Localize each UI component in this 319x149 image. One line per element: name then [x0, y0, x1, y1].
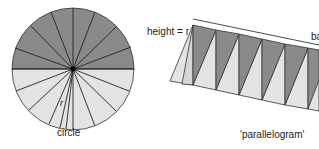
diagram-canvas: r circle height = r ba 'parallelogram' [0, 0, 319, 149]
center-dot [71, 67, 76, 72]
parallelogram-label: 'parallelogram' [240, 130, 304, 140]
base-label: ba [311, 32, 319, 42]
parallelogram-figure [170, 19, 319, 111]
circle-figure [12, 8, 134, 130]
height-label: height = r [147, 27, 189, 37]
circle-label: circle [57, 128, 80, 138]
diagram-svg [0, 0, 319, 149]
radius-label: r [60, 99, 63, 108]
